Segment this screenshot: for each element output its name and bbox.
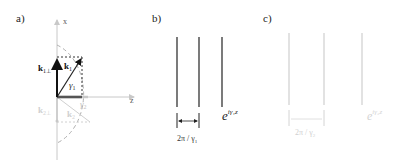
k1-perp-label: k1⊥ bbox=[38, 63, 51, 74]
panel-a: a) x z k1⊥ k1 bbox=[0, 0, 140, 165]
panel-c: c) 2π / γ2 eiγ₂z bbox=[255, 0, 399, 165]
k2-perp-label: k2⊥ bbox=[38, 105, 51, 116]
spacing-label: 2π / γ1 bbox=[177, 134, 198, 144]
k1-label: k1 bbox=[64, 61, 72, 72]
dashed-semicircle bbox=[57, 45, 84, 143]
wavefronts-gamma1: 2π / γ1 eiγ₁z bbox=[140, 0, 260, 165]
panel-b: b) 2π / γ1 eiγ₁z bbox=[140, 0, 260, 165]
k2-label: k2 bbox=[67, 109, 75, 120]
spacing-label: 2π / γ2 bbox=[295, 128, 316, 138]
gamma1-label: γ1 bbox=[69, 80, 76, 91]
wavefronts-gamma2: 2π / γ2 eiγ₂z bbox=[255, 0, 399, 165]
x-axis-label: x bbox=[63, 17, 67, 26]
wave-label: eiγ₁z bbox=[222, 108, 238, 123]
z-axis-label: z bbox=[130, 96, 134, 105]
wave-label: eiγ₂z bbox=[367, 108, 382, 123]
k-vector-diagram: x z k1⊥ k1 γ1 γ2 k2⊥ k2 bbox=[0, 0, 140, 165]
gamma2-label: γ2 bbox=[80, 99, 87, 110]
